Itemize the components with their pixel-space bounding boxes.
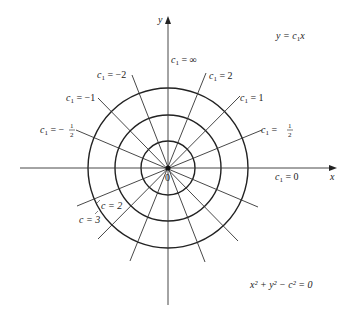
origin-dot: [166, 166, 171, 171]
label-c-2: c = 2: [101, 200, 122, 211]
frac-num: 1: [288, 122, 292, 130]
label-c1-2: c1 = 2: [209, 70, 233, 83]
family-equation: y = c1x: [275, 30, 305, 43]
label-c1-inf: c1 = ∞: [171, 54, 197, 67]
frac-den: 2: [288, 131, 292, 139]
label-c1-1: c1 = 1: [240, 92, 264, 105]
label-c1-neg1: c1 = −1: [66, 92, 95, 105]
y-axis-label: y: [157, 14, 163, 25]
label-c-3: c = 3: [79, 214, 100, 225]
direction-field-diagram: y x 0 c1 = ∞ c1 = 2 c1 = 1 c1 = 1 2 c1 =…: [0, 0, 352, 323]
origin-label: 0: [165, 172, 170, 183]
label-c1-0: c1 = 0: [275, 171, 299, 184]
label-c1-half: c1 =: [261, 124, 277, 137]
x-axis-label: x: [329, 171, 335, 182]
y-axis-arrow-icon: [165, 16, 171, 24]
label-c1-neg2: c1 = −2: [97, 69, 126, 82]
label-c1-neghalf: c1 = −: [40, 124, 65, 137]
frac-den: 2: [70, 131, 74, 139]
frac-num: 1: [70, 122, 74, 130]
circle-equation: x² + y² − c² = 0: [249, 279, 313, 290]
